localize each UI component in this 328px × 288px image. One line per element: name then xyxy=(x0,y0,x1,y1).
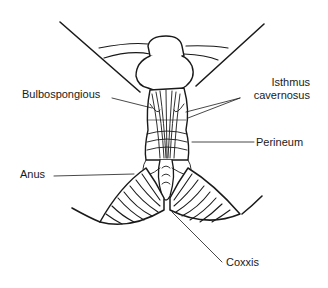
left-buttock-outline xyxy=(72,208,100,222)
leader-bulbospongious xyxy=(112,98,152,108)
label-isthmus-line1: Isthmus xyxy=(254,76,310,89)
label-isthmus-line2: cavernosus xyxy=(254,89,310,102)
leader-anus xyxy=(54,174,134,176)
right-buttock-outline xyxy=(242,196,262,214)
left-thigh-outline xyxy=(60,22,140,92)
scrotum xyxy=(136,56,193,91)
label-isthmus-cavernosus: Isthmus cavernosus xyxy=(254,76,310,102)
left-levator-lobe xyxy=(100,168,164,224)
label-bulbospongious: Bulbospongious xyxy=(22,88,100,101)
label-coxxis: Coxxis xyxy=(226,256,259,269)
glans xyxy=(148,36,184,59)
label-perineum: Perineum xyxy=(256,136,303,149)
label-anus: Anus xyxy=(20,168,45,181)
leader-isthmus-2 xyxy=(188,98,240,118)
right-levator-lobe xyxy=(170,168,240,220)
leader-isthmus-1 xyxy=(186,98,240,112)
